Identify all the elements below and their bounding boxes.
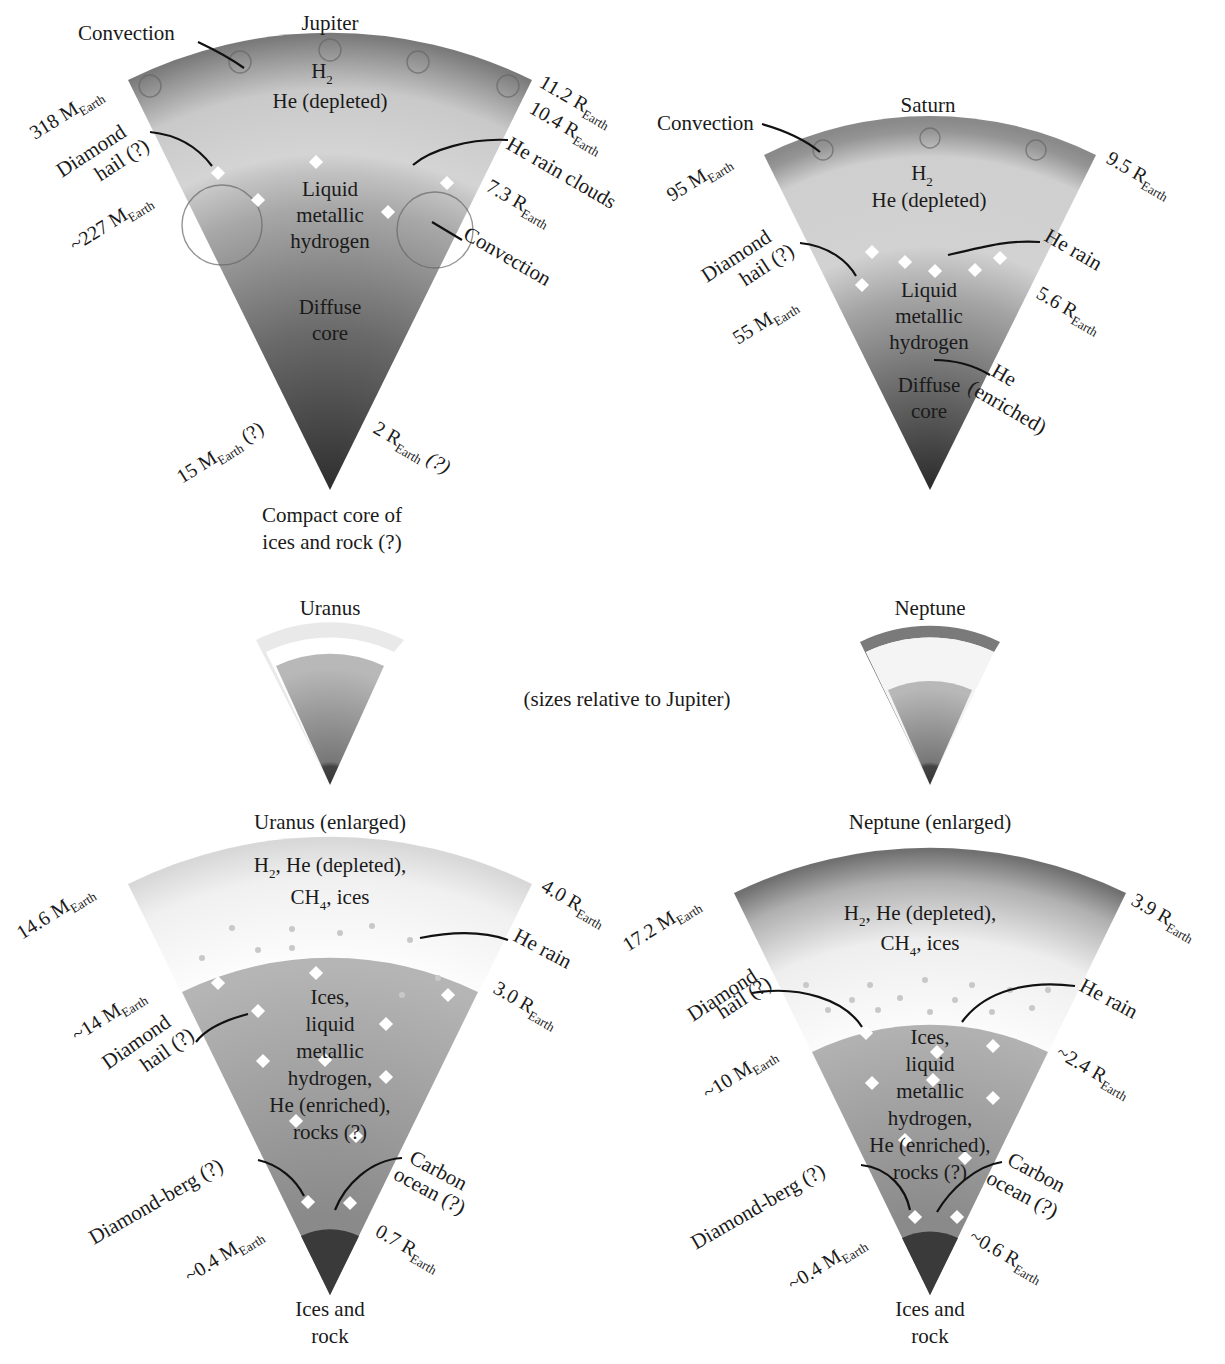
uranus-layer-outer-2: CH4, ices <box>291 885 370 913</box>
neptune-center-1: Ices and <box>895 1297 965 1321</box>
svg-text:~0.4 MEarth: ~0.4 MEarth <box>783 1229 871 1297</box>
neptune-core <box>902 1231 958 1295</box>
annotation-convection: Convection <box>657 111 754 135</box>
svg-text:~2.4 REarth: ~2.4 REarth <box>1051 1040 1136 1104</box>
svg-text:95 MEarth: 95 MEarth <box>662 149 736 209</box>
radius-label: 5.6 REarth <box>1031 281 1106 340</box>
saturn-layer-middle-3: hydrogen <box>889 330 969 354</box>
svg-text:0.7 REarth: 0.7 REarth <box>370 1219 445 1278</box>
jupiter-layer-middle-3: hydrogen <box>290 229 370 253</box>
neptune-small-wedge <box>888 681 972 785</box>
saturn-layer-middle-2: metallic <box>895 304 963 328</box>
uranus-title: Uranus (enlarged) <box>254 810 406 834</box>
uranus-center-2: rock <box>311 1324 349 1348</box>
annotation-diamond-hail: Diamond hail (?) <box>52 113 154 202</box>
saturn-layer-outer-he: He (depleted) <box>872 188 987 212</box>
mass-label: 14.6 MEarth <box>12 879 99 947</box>
uranus-panel: Uranus (enlarged) <box>12 810 611 1348</box>
radius-label: 2 REarth (?) <box>368 416 455 481</box>
svg-text:7.3 REarth: 7.3 REarth <box>481 174 556 233</box>
uranus-layer-middle-2: liquid <box>305 1012 355 1036</box>
svg-text:5.6 REarth: 5.6 REarth <box>1031 281 1106 340</box>
neptune-small-panel: Neptune <box>860 596 1000 785</box>
mass-label: 15 MEarth (?) <box>172 417 269 491</box>
neptune-small-title: Neptune <box>894 596 965 620</box>
jupiter-panel: Jupiter H2 He (depleted) Liquid metallic… <box>25 11 620 554</box>
annotation-diamond-hail: Diamond hail (?) <box>697 218 799 307</box>
neptune-title: Neptune (enlarged) <box>849 810 1011 834</box>
mass-label: ~10 MEarth <box>698 1041 782 1107</box>
radius-label: ~0.6 REarth <box>964 1224 1049 1288</box>
uranus-small-title: Uranus <box>300 596 361 620</box>
uranus-layer-middle-4: hydrogen, <box>288 1066 373 1090</box>
annotation-convection: Convection <box>78 21 175 45</box>
saturn-panel: Saturn H2 He (depleted) Liquid metallic … <box>657 93 1176 490</box>
annotation-he-rain: He rain <box>510 923 577 974</box>
mass-label: ~227 MEarth <box>65 188 157 259</box>
radius-label: 4.0 REarth <box>536 874 611 933</box>
neptune-layer-middle-4: hydrogen, <box>888 1106 973 1130</box>
annotation-he-rain: He rain <box>1076 973 1143 1024</box>
svg-text:~227 MEarth: ~227 MEarth <box>65 188 157 259</box>
neptune-layer-outer-1: H2, He (depleted), <box>844 901 996 929</box>
mass-label: 55 MEarth <box>728 292 802 352</box>
svg-text:Convection: Convection <box>460 222 556 291</box>
radius-label: 0.7 REarth <box>370 1219 445 1278</box>
neptune-center-2: rock <box>911 1324 949 1348</box>
jupiter-title: Jupiter <box>301 11 358 35</box>
radius-label: 3.9 REarth <box>1126 888 1201 947</box>
jupiter-center-2: ices and rock (?) <box>262 530 401 554</box>
uranus-layer-middle-3: metallic <box>296 1039 364 1063</box>
radius-label: 7.3 REarth <box>481 174 556 233</box>
annotation-he-rain: He rain <box>1041 224 1107 276</box>
neptune-layer-middle-2: liquid <box>905 1052 955 1076</box>
svg-text:~10 MEarth: ~10 MEarth <box>698 1041 782 1107</box>
annotation-diamond-berg: Diamond-berg (?) <box>687 1158 829 1254</box>
planet-interiors-diagram: Jupiter H2 He (depleted) Liquid metallic… <box>0 0 1225 1364</box>
neptune-layer-middle-6: rocks (?) <box>893 1160 967 1184</box>
mass-label: 17.2 MEarth <box>618 891 705 959</box>
uranus-layer-middle-6: rocks (?) <box>293 1120 367 1144</box>
uranus-center-1: Ices and <box>295 1297 365 1321</box>
uranus-layer-middle-1: Ices, <box>310 985 349 1009</box>
svg-text:55 MEarth: 55 MEarth <box>728 292 802 352</box>
jupiter-layer-outer-he: He (depleted) <box>273 89 388 113</box>
svg-text:9.5 REarth: 9.5 REarth <box>1101 146 1176 205</box>
uranus-layer-middle-5: He (enriched), <box>269 1093 390 1117</box>
saturn-layer-inner-1: Diffuse <box>898 373 961 397</box>
saturn-title: Saturn <box>901 93 956 117</box>
radius-label: 3.0 REarth <box>488 976 563 1035</box>
neptune-layer-middle-5: He (enriched), <box>869 1133 990 1157</box>
radius-label: ~2.4 REarth <box>1051 1040 1136 1104</box>
jupiter-layer-middle-2: metallic <box>296 203 364 227</box>
annotation-diamond-berg: Diamond-berg (?) <box>85 1153 227 1249</box>
svg-text:4.0 REarth: 4.0 REarth <box>536 874 611 933</box>
neptune-layer-outer-2: CH4, ices <box>881 931 960 959</box>
neptune-layer-middle-1: Ices, <box>910 1025 949 1049</box>
jupiter-layer-inner-2: core <box>312 321 348 345</box>
neptune-layer-middle-3: metallic <box>896 1079 964 1103</box>
saturn-layer-inner-2: core <box>911 399 947 423</box>
saturn-layer-middle-1: Liquid <box>901 278 957 302</box>
uranus-layer-outer-1: H2, He (depleted), <box>254 853 406 881</box>
mass-label: 95 MEarth <box>662 149 736 209</box>
svg-text:17.2 MEarth: 17.2 MEarth <box>618 891 705 959</box>
annotation-diamond-hail: Diamond hail (?) <box>683 959 776 1038</box>
svg-text:Diamond-berg (?): Diamond-berg (?) <box>687 1158 829 1254</box>
annotation-convection-mid: Convection <box>460 222 556 291</box>
svg-text:3.0 REarth: 3.0 REarth <box>488 976 563 1035</box>
mass-label: ~0.4 MEarth <box>783 1229 871 1297</box>
mass-label: ~0.4 MEarth <box>180 1221 268 1289</box>
svg-text:15 MEarth (?): 15 MEarth (?) <box>172 417 269 491</box>
jupiter-layer-middle-1: Liquid <box>302 177 358 201</box>
annotation-carbon-ocean: Carbon ocean (?) <box>390 1142 480 1219</box>
svg-text:He rain: He rain <box>510 923 577 974</box>
svg-text:~0.6 REarth: ~0.6 REarth <box>964 1224 1049 1288</box>
uranus-small-panel: Uranus <box>256 596 404 785</box>
svg-text:2 REarth (?): 2 REarth (?) <box>368 416 455 481</box>
radius-label: 9.5 REarth <box>1101 146 1176 205</box>
svg-text:14.6 MEarth: 14.6 MEarth <box>12 879 99 947</box>
jupiter-center-1: Compact core of <box>262 503 402 527</box>
jupiter-layer-inner-1: Diffuse <box>299 295 362 319</box>
svg-text:Diamond-berg (?): Diamond-berg (?) <box>85 1153 227 1249</box>
